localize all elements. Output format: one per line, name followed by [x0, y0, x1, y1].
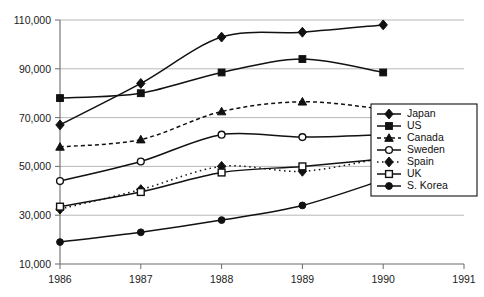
data-point-sweden-1988: [218, 131, 225, 138]
data-point-us-1990: [380, 69, 387, 76]
legend-label-japan: Japan: [407, 107, 436, 119]
x-tick-label-1986: 1986: [48, 273, 72, 285]
data-point-legend-sweden: [386, 147, 393, 154]
y-tick-label-90000: 90,000: [19, 63, 51, 75]
x-tick-label-1989: 1989: [291, 273, 315, 285]
chart-legend: JapanUSCanadaSwedenSpainUKS. Korea: [371, 104, 477, 196]
y-tick-label-110000: 110,000: [14, 14, 51, 26]
legend-label-spain: Spain: [407, 155, 434, 167]
legend-label-s-korea: S. Korea: [407, 179, 448, 191]
x-tick-label-1988: 1988: [210, 273, 234, 285]
x-tick-label-1991: 1991: [452, 273, 476, 285]
data-point-us-1987: [137, 90, 144, 97]
y-tick-label-70000: 70,000: [19, 112, 51, 124]
y-tick-label-50000: 50,000: [19, 160, 51, 172]
data-point-legend-uk: [386, 171, 393, 178]
x-tick-label-1990: 1990: [372, 273, 396, 285]
data-point-sweden-1986: [57, 178, 64, 185]
data-point-us-1988: [218, 69, 225, 76]
data-point-us-1986: [57, 95, 64, 102]
y-tick-label-10000: 10,000: [19, 258, 51, 270]
data-point-uk-1988: [218, 169, 225, 176]
data-point-sweden-1989: [299, 134, 306, 141]
data-point-legend-us: [386, 123, 393, 130]
y-tick-label-30000: 30,000: [19, 209, 51, 221]
data-point-legend-s-korea: [386, 183, 393, 190]
data-point-uk-1986: [57, 203, 64, 210]
data-point-s-korea-1989: [299, 202, 306, 209]
data-point-s-korea-1987: [137, 229, 144, 236]
legend-label-sweden: Sweden: [407, 143, 445, 155]
chart-canvas: 10,00030,00050,00070,00090,000110,000 19…: [0, 0, 484, 297]
x-tick-label-1987: 1987: [129, 273, 153, 285]
data-point-s-korea-1988: [218, 217, 225, 224]
data-point-us-1989: [299, 56, 306, 63]
data-point-sweden-1987: [137, 158, 144, 165]
legend-label-canada: Canada: [407, 131, 444, 143]
data-point-s-korea-1986: [57, 239, 64, 246]
data-point-uk-1987: [137, 189, 144, 196]
line-chart: 10,00030,00050,00070,00090,000110,000 19…: [0, 0, 484, 297]
legend-label-us: US: [407, 119, 422, 131]
legend-label-uk: UK: [407, 167, 422, 179]
data-point-uk-1989: [299, 163, 306, 170]
